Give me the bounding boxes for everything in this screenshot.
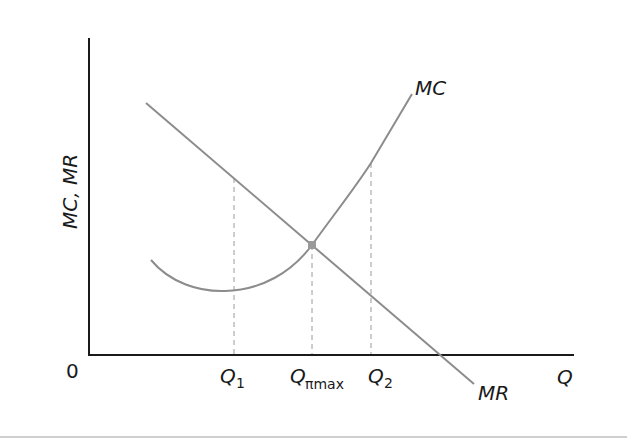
svg-text:Q: Q: [220, 364, 236, 388]
x-axis-label: Q: [557, 365, 573, 389]
mc-mr-diagram: MC, MR 0 Q MC MR Q 1 Q πmax Q 2: [0, 0, 627, 447]
mr-label: MR: [478, 381, 509, 405]
qmax-label: Q πmax: [290, 364, 344, 392]
y-axis-label: MC, MR: [58, 154, 82, 229]
q2-label: Q 2: [368, 364, 393, 391]
svg-text:Q: Q: [368, 364, 384, 388]
intersection-point: [308, 241, 316, 249]
origin-label: 0: [66, 359, 79, 383]
svg-text:1: 1: [236, 375, 245, 391]
mc-curve: [151, 94, 412, 291]
svg-text:πmax: πmax: [305, 376, 344, 392]
mc-label: MC: [415, 76, 446, 100]
svg-text:2: 2: [384, 375, 393, 391]
bottom-divider: [0, 436, 627, 438]
q1-label: Q 1: [220, 364, 245, 391]
svg-text:Q: Q: [290, 364, 306, 388]
